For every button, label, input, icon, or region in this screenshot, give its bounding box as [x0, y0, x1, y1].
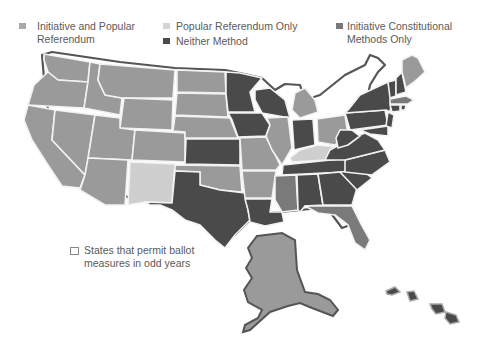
state-arkansas — [242, 171, 276, 198]
state-colorado — [132, 130, 185, 162]
state-new-jersey — [386, 112, 394, 128]
state-arizona — [80, 158, 128, 205]
state-michigan — [292, 88, 318, 118]
contiguous-us — [24, 52, 425, 250]
odd-years-label: States that permit ballot measures in od… — [84, 244, 244, 270]
state-north-dakota — [177, 70, 226, 93]
state-maine — [402, 55, 425, 88]
state-new-mexico — [128, 162, 175, 205]
state-indiana — [292, 119, 315, 150]
state-new-york — [345, 82, 392, 113]
state-vermont — [388, 80, 396, 98]
state-south-dakota — [175, 93, 228, 117]
state-connecticut — [390, 105, 400, 112]
state-wyoming — [120, 98, 173, 130]
state-mississippi — [275, 175, 298, 212]
state-rhode-island — [401, 105, 406, 110]
state-kansas — [185, 139, 240, 165]
odd-years-swatch — [70, 247, 79, 255]
state-hawaii — [386, 287, 459, 324]
state-florida — [305, 206, 370, 250]
state-alaska — [243, 233, 338, 332]
state-montana — [98, 64, 175, 98]
us-map — [0, 0, 479, 344]
